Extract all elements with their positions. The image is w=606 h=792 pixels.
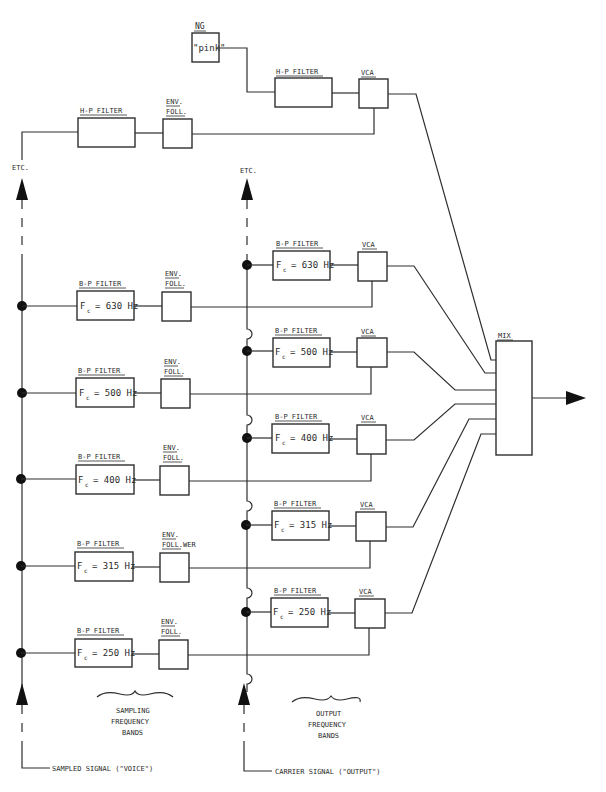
etc-left-label: ETC. — [12, 164, 29, 172]
fc-sub: c — [87, 307, 91, 314]
fc-label: F — [77, 561, 82, 571]
caption-line: BANDS — [318, 732, 339, 740]
fc-label: F — [275, 433, 280, 443]
analysis-filter-label: B-P FILTER — [78, 453, 121, 461]
vca-label: VCA — [361, 414, 374, 422]
synthesis-band-400: B-P FILTER F c = 400 Hz VCA — [242, 404, 506, 454]
env-label-2: FOLL. — [165, 280, 186, 288]
wire-noise-vca-to-mix — [388, 94, 506, 360]
env-foll-box — [159, 640, 188, 669]
etc-right-label: ETC. — [240, 167, 257, 175]
fc-label: F — [79, 388, 84, 398]
arrow-up-icon — [238, 683, 250, 705]
fc-value: = 250 Hz — [92, 648, 135, 658]
fc-sub: c — [280, 613, 284, 620]
caption-line: BANDS — [122, 729, 143, 737]
fc-value: = 500 Hz — [290, 347, 333, 357]
sampling-hp-filter: H-P FILTER — [78, 107, 135, 147]
env-label-1: ENV. — [164, 358, 181, 366]
sampling-bands-caption: SAMPLING FREQUENCY BANDS — [97, 691, 173, 737]
fc-value: = 500 Hz — [94, 388, 137, 398]
env-label-2: FOLL. — [161, 628, 182, 636]
fc-sub: c — [281, 526, 285, 533]
arrow-up-icon — [16, 683, 28, 705]
env-label-2: FOLL.WER — [162, 541, 197, 549]
fc-sub: c — [86, 394, 90, 401]
noise-hp-filter-box — [275, 78, 332, 107]
mix-box — [496, 341, 532, 455]
fc-label: F — [80, 301, 85, 311]
wire-hp-env-to-noise-vca — [192, 108, 374, 134]
env-foll-box — [162, 292, 191, 321]
fc-value: = 250 Hz — [288, 607, 331, 617]
vca-label: VCA — [359, 588, 372, 596]
sampled-signal-label: SAMPLED SIGNAL ("VOICE") — [52, 765, 153, 773]
fc-value: = 400 Hz — [290, 433, 333, 443]
sampling-hp-filter-box — [78, 118, 135, 147]
analysis-filter-label: B-P FILTER — [79, 280, 122, 288]
fc-label: F — [273, 607, 278, 617]
analysis-filter-label: B-P FILTER — [78, 367, 121, 375]
vca-label: VCA — [361, 328, 374, 336]
vca-box — [357, 338, 387, 367]
fc-value: = 630 Hz — [291, 260, 334, 270]
fc-value: = 400 Hz — [93, 475, 136, 485]
noise-generator-label: NG — [195, 22, 205, 31]
output-arrow-icon — [566, 391, 586, 405]
sampling-hp-env-box — [163, 119, 192, 148]
fc-label: F — [276, 260, 281, 270]
vca-box — [356, 512, 386, 541]
sampling-hp-filter-label: H-P FILTER — [80, 107, 123, 115]
fc-value: = 315 Hz — [92, 561, 135, 571]
analysis-filter-label: B-P FILTER — [77, 540, 120, 548]
output-bands-caption: OUTPUT FREQUENCY BANDS — [292, 696, 360, 740]
fc-label: F — [78, 475, 83, 485]
carrier-signal-label: CARRIER SIGNAL ("OUTPUT") — [275, 768, 380, 776]
fc-value: = 630 Hz — [95, 301, 138, 311]
noise-vca-label: VCA — [361, 69, 374, 77]
vca-box — [355, 599, 385, 628]
env-label-1: ENV. — [163, 444, 180, 452]
sampling-hp-env-foll: ENV. FOLL. — [163, 98, 192, 148]
wire-noise-to-hp — [219, 48, 275, 92]
caption-line: FREQUENCY — [308, 721, 347, 729]
synthesis-filter-label: B-P FILTER — [276, 240, 319, 248]
fc-label: F — [77, 648, 82, 658]
arrow-up-icon — [16, 178, 28, 200]
vca-box — [358, 252, 387, 281]
vocoder-diagram: NG "pink" H-P FILTER VCA H-P FILTER ENV.… — [0, 0, 606, 792]
env-foll-box — [160, 466, 189, 495]
arrow-up-icon — [241, 178, 253, 200]
synthesis-band-500: B-P FILTER F c = 500 Hz VCA — [242, 327, 506, 390]
env-label-1: ENV. — [161, 618, 178, 626]
synthesis-filter-label: B-P FILTER — [274, 587, 317, 595]
fc-sub: c — [282, 439, 286, 446]
mix-label: MIX — [498, 332, 511, 340]
carrier-bus — [247, 260, 252, 692]
env-foll-box — [161, 379, 190, 408]
vca-label: VCA — [362, 241, 375, 249]
fc-label: F — [274, 520, 279, 530]
caption-line: OUTPUT — [316, 710, 342, 718]
vca-box — [357, 425, 386, 454]
env-label-1: ENV. — [162, 531, 179, 539]
analysis-filter-label: B-P FILTER — [77, 627, 120, 635]
vca-label: VCA — [360, 501, 373, 509]
synthesis-filter-label: B-P FILTER — [275, 327, 318, 335]
fc-sub: c — [283, 266, 287, 273]
fc-label: F — [275, 347, 280, 357]
env-foll-box — [160, 553, 189, 582]
env-label-2: FOLL. — [163, 454, 184, 462]
caption-line: FREQUENCY — [111, 718, 150, 726]
synthesis-filter-label: B-P FILTER — [275, 413, 318, 421]
sampling-hp-env-label-1: ENV. — [166, 98, 183, 106]
fc-value: = 315 Hz — [289, 520, 332, 530]
mix-block: MIX — [496, 332, 586, 455]
noise-hp-filter: H-P FILTER — [275, 68, 332, 107]
fc-sub: c — [85, 481, 89, 488]
fc-sub: c — [84, 567, 88, 574]
synthesis-filter-label: B-P FILTER — [274, 500, 317, 508]
env-label-2: FOLL. — [164, 368, 185, 376]
caption-line: SAMPLING — [116, 707, 150, 715]
env-label-1: ENV. — [165, 270, 182, 278]
